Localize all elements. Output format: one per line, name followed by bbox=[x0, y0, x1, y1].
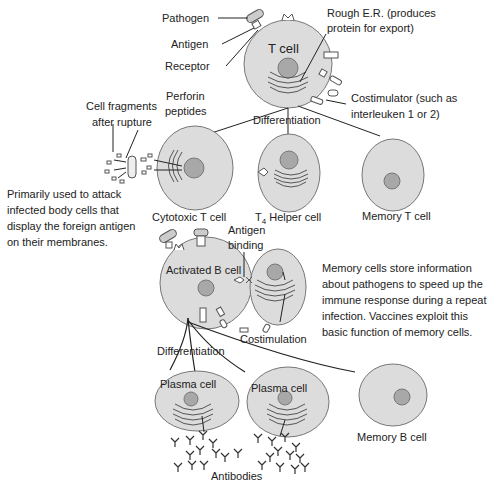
activated-b-cell-label: Activated B cell bbox=[166, 263, 241, 277]
memory-b-cell-label: Memory B cell bbox=[357, 430, 427, 444]
t-cell-title: T cell bbox=[268, 42, 299, 56]
differentiation-label-b: Differentiation bbox=[157, 344, 225, 358]
receptor-label: Receptor bbox=[165, 59, 210, 73]
plasma-cell-1-label: Plasma cell bbox=[160, 377, 216, 391]
fragments-label-1: Cell fragments bbox=[86, 99, 157, 113]
costimulator-label-2: interleuken 1 or 2) bbox=[351, 107, 440, 121]
memory-t-cell-label: Memory T cell bbox=[362, 209, 431, 223]
plasma-cell-2-label: Plasma cell bbox=[251, 381, 307, 395]
cytotoxic-note: Primarily used to attack infected body c… bbox=[7, 186, 135, 250]
antigen-binding-label-1: Antigen bbox=[228, 223, 265, 237]
perforin-label-2: peptides bbox=[165, 104, 207, 118]
differentiation-label-t: Differentiation bbox=[253, 113, 321, 127]
rough-er-label-1: Rough E.R. (produces bbox=[327, 6, 436, 20]
fragments-label-2: after rupture bbox=[92, 115, 152, 129]
antigen-label: Antigen bbox=[171, 37, 208, 51]
antigen-binding-label-2: binding bbox=[228, 238, 263, 252]
pathogen-label: Pathogen bbox=[162, 11, 209, 25]
cytotoxic-t-cell-label: Cytotoxic T cell bbox=[152, 210, 226, 224]
rough-er-label-2: protein for export) bbox=[327, 21, 414, 35]
antibodies-label: Antibodies bbox=[211, 469, 262, 483]
perforin-label-1: Perforin bbox=[166, 89, 205, 103]
leader-lines-top bbox=[113, 18, 380, 158]
memory-b-cell bbox=[359, 364, 427, 426]
memory-note: Memory cells store information about pat… bbox=[322, 260, 486, 340]
costimulation-label: Costimulation bbox=[240, 332, 307, 346]
t4-helper-cell bbox=[258, 134, 320, 212]
plasma-cell-2 bbox=[247, 367, 329, 437]
memory-t-cell bbox=[362, 139, 424, 211]
costimulator-label-1: Costimulator (such as bbox=[351, 91, 457, 105]
